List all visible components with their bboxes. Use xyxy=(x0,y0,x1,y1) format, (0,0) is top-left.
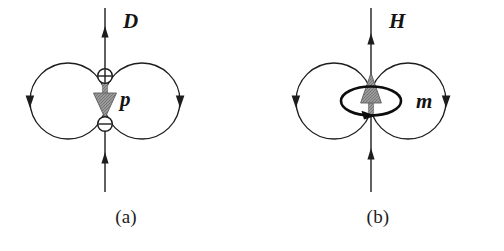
positive-charge-symbol xyxy=(98,69,113,84)
field-line-lobe-right xyxy=(370,63,446,139)
field-axis-arrowhead-bottom xyxy=(367,148,374,160)
field-axis-arrowhead-top xyxy=(101,26,108,38)
figure-root: D p (a) xyxy=(0,0,504,251)
dipole-moment-arrow-p xyxy=(94,93,117,118)
field-line-arrowhead-right xyxy=(176,96,185,109)
field-label-D: D xyxy=(123,11,138,32)
panel-caption-a: (a) xyxy=(0,206,252,228)
moment-label-m: m xyxy=(416,91,432,112)
negative-charge-symbol xyxy=(98,117,113,132)
moment-label-p: p xyxy=(120,89,131,110)
field-label-H: H xyxy=(389,11,405,32)
field-axis-arrowhead-bottom xyxy=(101,152,108,164)
field-line-lobe-right xyxy=(104,63,180,139)
panel-caption-b: (b) xyxy=(252,206,504,228)
field-axis-arrowhead-top xyxy=(367,33,374,45)
field-line-lobe-left xyxy=(30,63,106,139)
panel-electric-dipole: D p (a) xyxy=(0,0,252,251)
field-line-arrowhead-right xyxy=(442,96,451,109)
panel-magnetic-dipole: H m (b) xyxy=(252,0,504,251)
field-line-lobe-left xyxy=(296,63,372,139)
field-line-arrowhead-left xyxy=(292,96,301,109)
field-line-arrowhead-left xyxy=(26,96,35,109)
